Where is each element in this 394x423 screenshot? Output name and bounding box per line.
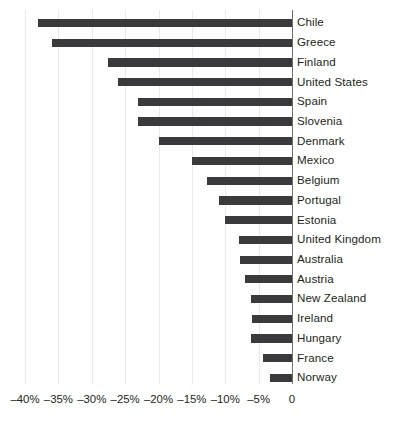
category-label: Estonia (297, 213, 336, 227)
x-tick-label: –15% (177, 391, 206, 407)
category-label: Mexico (297, 153, 334, 167)
bar-row: United Kingdom (0, 230, 394, 250)
category-label: Finland (297, 55, 336, 69)
category-label: Portugal (297, 193, 341, 207)
category-label: Greece (297, 35, 336, 49)
bar-row: Belgium (0, 171, 394, 191)
category-label: Belgium (297, 173, 340, 187)
bar (245, 275, 292, 283)
bar (239, 236, 292, 244)
bar-row: Austria (0, 269, 394, 289)
bar (251, 295, 292, 303)
bar-row: Greece (0, 33, 394, 53)
bar (225, 216, 292, 224)
bar-chart: ChileGreeceFinlandUnited StatesSpainSlov… (0, 0, 394, 423)
bar (251, 334, 292, 342)
bar-row: Slovenia (0, 112, 394, 132)
x-axis-tick-labels: –40%–35%–30%–25%–20%–15%–10%–5%0 (0, 391, 394, 411)
bar-row: Spain (0, 92, 394, 112)
category-label: Austria (297, 272, 334, 286)
bar-row: Norway (0, 368, 394, 388)
bar-row: United States (0, 72, 394, 92)
zero-axis (292, 10, 293, 384)
bar-row: New Zealand (0, 289, 394, 309)
x-tick-label: –10% (211, 391, 240, 407)
bar-row: Finland (0, 52, 394, 72)
bar (252, 315, 292, 323)
category-label: New Zealand (297, 291, 366, 305)
category-label: Spain (297, 94, 327, 108)
x-tick-label: 0 (289, 391, 295, 407)
category-label: Hungary (297, 331, 342, 345)
bar-row: Hungary (0, 329, 394, 349)
category-label: Ireland (297, 311, 333, 325)
bar-row: Denmark (0, 131, 394, 151)
category-label: Slovenia (297, 114, 342, 128)
bar (263, 354, 292, 362)
bar (192, 157, 292, 165)
x-tick-label: –25% (111, 391, 140, 407)
bar (138, 117, 292, 125)
bar (270, 374, 292, 382)
category-label: United Kingdom (297, 232, 381, 246)
bar-row: Estonia (0, 210, 394, 230)
bar (138, 98, 292, 106)
bar (108, 58, 292, 66)
category-label: United States (297, 75, 368, 89)
category-label: Denmark (297, 134, 345, 148)
bar-row: Portugal (0, 190, 394, 210)
bar (118, 78, 292, 86)
category-label: Norway (297, 370, 337, 384)
bar-row: France (0, 348, 394, 368)
bar-row: Australia (0, 250, 394, 270)
bar-row: Mexico (0, 151, 394, 171)
bar (159, 137, 293, 145)
x-tick-label: –20% (144, 391, 173, 407)
category-label: Australia (297, 252, 343, 266)
plot-area: ChileGreeceFinlandUnited StatesSpainSlov… (0, 0, 394, 390)
category-label: France (297, 351, 334, 365)
x-tick-label: –5% (247, 391, 270, 407)
bar (52, 39, 292, 47)
bar-row: Ireland (0, 309, 394, 329)
bar (240, 256, 292, 264)
bar-row: Chile (0, 13, 394, 33)
x-tick-label: –40% (10, 391, 39, 407)
bar (38, 19, 292, 27)
x-tick-label: –35% (44, 391, 73, 407)
x-tick-label: –30% (77, 391, 106, 407)
bar (207, 177, 292, 185)
bar (219, 196, 292, 204)
category-label: Chile (297, 15, 324, 29)
